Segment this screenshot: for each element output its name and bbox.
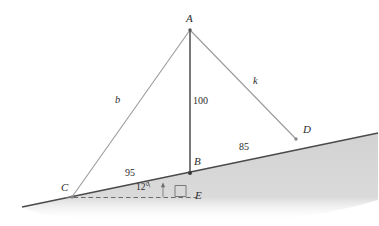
hillside-shading xyxy=(22,133,378,222)
vertex-dot-D xyxy=(294,137,297,140)
diagram-canvas xyxy=(0,0,379,226)
segment-label-95: 95 xyxy=(125,168,135,178)
vertex-dot-B xyxy=(188,171,192,175)
segment-label-85: 85 xyxy=(239,142,249,152)
segment-label-k: k xyxy=(253,76,258,87)
point-label-E: E xyxy=(195,190,202,201)
vertex-dot-A xyxy=(188,28,191,31)
point-label-A: A xyxy=(186,13,193,24)
segment-label-b: b xyxy=(115,95,120,106)
segment-label-100: 100 xyxy=(193,96,208,106)
point-label-D: D xyxy=(303,124,311,135)
vertex-dot-C xyxy=(70,195,73,198)
angle-label-12deg: 12° xyxy=(136,183,149,193)
segment-AD xyxy=(190,30,296,139)
point-label-C: C xyxy=(61,182,68,193)
point-label-B: B xyxy=(194,156,201,167)
geometry-diagram: A B C D E b k 100 95 85 12° xyxy=(0,0,379,226)
